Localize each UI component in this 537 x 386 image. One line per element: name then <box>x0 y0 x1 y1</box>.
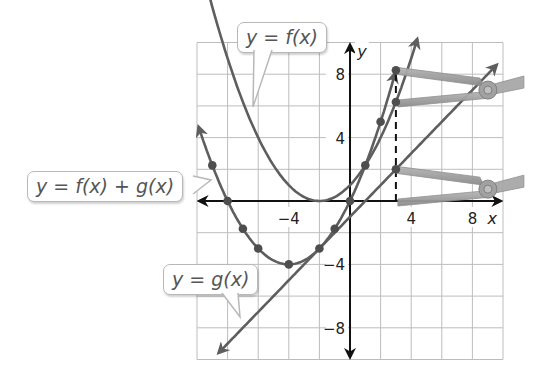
callout-f: y = f(x) <box>237 22 327 53</box>
data-point <box>208 161 217 170</box>
data-point <box>330 224 339 233</box>
data-point <box>392 165 401 174</box>
tick-labels: −44884−4−8xy <box>273 42 500 338</box>
y-tick-label: −4 <box>323 256 345 274</box>
callout-sum-pointer <box>193 172 223 202</box>
x-tick-label: 4 <box>406 210 416 228</box>
y-tick-label: 8 <box>335 66 345 84</box>
data-point <box>392 66 401 75</box>
data-point <box>346 197 355 206</box>
data-points <box>208 66 400 269</box>
measuring-clip-icon <box>396 67 524 107</box>
y-axis-label: y <box>356 42 367 61</box>
label-sum: y = f(x) + g(x) <box>36 175 174 197</box>
data-point <box>254 244 263 253</box>
data-point <box>239 224 248 233</box>
x-axis-label: x <box>487 209 498 228</box>
data-point <box>361 161 370 170</box>
x-tick-label: −4 <box>278 210 300 228</box>
measuring-clip-icon <box>396 166 524 206</box>
callout-sum: y = f(x) + g(x) <box>27 171 183 202</box>
label-f: y = f(x) <box>246 26 318 48</box>
y-tick-label: −8 <box>323 320 345 338</box>
callout-g-pointer <box>222 293 262 333</box>
callout-g: y = g(x) <box>163 264 258 295</box>
label-g: y = g(x) <box>172 268 249 290</box>
x-tick-label: 8 <box>468 210 478 228</box>
data-point <box>223 197 232 206</box>
data-point <box>392 98 401 107</box>
data-point <box>285 260 294 269</box>
data-point <box>315 244 324 253</box>
y-tick-label: 4 <box>335 130 345 148</box>
data-point <box>376 117 385 126</box>
callout-f-pointer <box>250 50 290 110</box>
clip-icons <box>396 67 524 206</box>
